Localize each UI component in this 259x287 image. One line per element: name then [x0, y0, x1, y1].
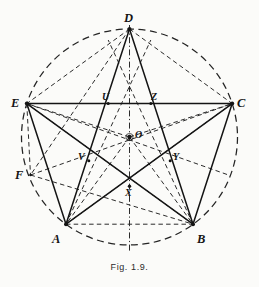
label-point-F: F: [15, 169, 23, 182]
figure-caption: Fig. 1.9.: [0, 262, 259, 272]
point-marker-A: [64, 222, 68, 226]
edge-A-C: [66, 104, 232, 225]
label-point-O: O: [135, 130, 142, 140]
point-marker-E: [25, 102, 29, 106]
edge-E-B: [27, 104, 193, 225]
edge-D-E: [27, 29, 130, 104]
label-point-B: B: [197, 233, 205, 246]
label-point-U: U: [102, 92, 109, 102]
chord-B-E-upper: [108, 40, 193, 224]
point-marker-F: [29, 174, 32, 177]
label-point-E: E: [11, 97, 19, 110]
pentagram-figure: [0, 0, 259, 287]
label-point-X: X: [125, 188, 132, 198]
label-point-Z: Z: [151, 92, 157, 102]
point-marker-Y: [169, 159, 172, 162]
point-marker-V: [87, 159, 90, 162]
point-marker-Z: [149, 102, 152, 105]
edge-D-B: [130, 29, 194, 224]
label-point-Y: Y: [173, 152, 179, 162]
label-point-A: A: [52, 233, 60, 246]
point-marker-D: [128, 27, 132, 31]
label-point-D: D: [124, 12, 133, 25]
point-marker-O: [127, 135, 131, 139]
label-point-V: V: [78, 152, 85, 162]
figure-page: D C B A E U Z V Y X O F Fig. 1.9.: [0, 0, 259, 287]
edge-D-C: [130, 29, 233, 104]
label-point-C: C: [237, 97, 245, 110]
chord-F-B: [31, 175, 194, 224]
point-marker-U: [107, 102, 110, 105]
radius-O-C: [130, 104, 233, 137]
radius-O-B: [130, 137, 194, 224]
point-marker-C: [230, 102, 234, 106]
edge-E-A: [27, 104, 66, 225]
point-marker-B: [191, 222, 195, 226]
radius-O-A: [66, 137, 130, 224]
